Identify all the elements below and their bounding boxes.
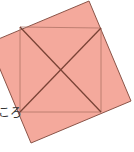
partial-label: ころ xyxy=(0,103,22,120)
square-diagram xyxy=(0,0,134,152)
